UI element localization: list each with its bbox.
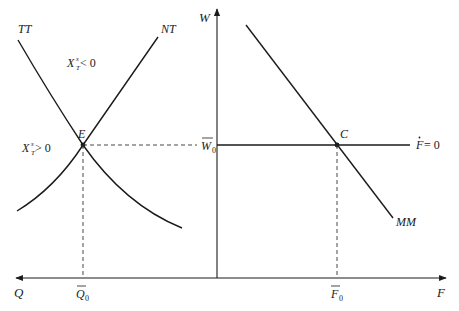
svg-text:X: X xyxy=(21,141,30,155)
svg-text:F: F xyxy=(415,138,424,152)
f-dot-zero-label: F = 0 xyxy=(415,137,440,152)
svg-text:< 0: < 0 xyxy=(80,56,96,70)
axes xyxy=(16,9,446,278)
nt-label: NT xyxy=(160,22,177,36)
svg-text:0: 0 xyxy=(212,146,216,155)
svg-text:W: W xyxy=(201,139,212,153)
tt-label: TT xyxy=(18,22,33,36)
region-label-excess-supply-negative: X s T < 0 xyxy=(66,55,96,72)
equilibrium-label-e: E xyxy=(77,127,86,141)
svg-text:Q: Q xyxy=(76,287,85,301)
tt-curve xyxy=(18,40,182,228)
svg-text:0: 0 xyxy=(339,294,343,303)
right-panel: C MM F = 0 F 0 xyxy=(217,25,440,303)
svg-text:0: 0 xyxy=(85,294,89,303)
left-panel: TT NT X s T < 0 X s T > 0 E Q 0 xyxy=(17,22,197,303)
svg-text:F: F xyxy=(330,287,339,301)
svg-text:s: s xyxy=(31,140,34,148)
four-quadrant-diagram: W Q F TT NT X s T < 0 X s T > 0 E Q xyxy=(0,0,459,311)
mm-curve xyxy=(246,25,393,218)
q0-tick-label: Q 0 xyxy=(76,286,89,303)
w-axis-label: W xyxy=(199,10,211,25)
f0-tick-label: F 0 xyxy=(330,286,343,303)
equilibrium-label-c: C xyxy=(340,127,349,141)
w0-tick-label: W 0 xyxy=(201,138,216,155)
svg-text:= 0: = 0 xyxy=(424,138,440,152)
svg-text:> 0: > 0 xyxy=(35,141,51,155)
f-axis-label: F xyxy=(436,285,446,300)
mm-label: MM xyxy=(395,215,417,229)
q-axis-label: Q xyxy=(14,285,24,300)
region-label-excess-supply-positive: X s T > 0 xyxy=(21,140,51,157)
svg-text:X: X xyxy=(66,56,75,70)
svg-text:s: s xyxy=(76,55,79,63)
